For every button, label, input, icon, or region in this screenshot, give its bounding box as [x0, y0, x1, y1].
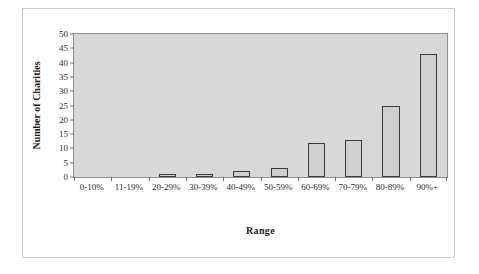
y-axis-tick-label: 5 [64, 158, 69, 167]
x-axis-tick-label: 30-39% [185, 181, 222, 193]
y-axis-tick [70, 119, 74, 120]
bar [233, 171, 250, 177]
y-axis-tick-label: 10 [59, 144, 68, 153]
y-axis-tick-label: 30 [59, 87, 68, 96]
chart-canvas: Number of Charities 05101520253035404550… [23, 9, 454, 257]
x-axis-title-label: Range [246, 225, 275, 236]
x-axis-tick-label: 60-69% [297, 181, 334, 193]
x-axis-tick-label: 40-49% [222, 181, 259, 193]
y-axis-tick [70, 48, 74, 49]
bar [345, 140, 362, 177]
x-axis-tick-label: 80-89% [371, 181, 408, 193]
y-axis-tick-label: 35 [59, 72, 68, 81]
bar [420, 54, 437, 177]
y-axis-tick-label: 0 [64, 173, 69, 182]
x-axis-tick-label: 11-19% [110, 181, 147, 193]
y-axis-tick-label: 50 [59, 30, 68, 39]
x-axis-title: Range [73, 225, 448, 236]
y-axis-title-label: Number of Charities [31, 61, 42, 149]
y-axis-tick-label: 25 [59, 101, 68, 110]
y-axis-tick [70, 62, 74, 63]
y-axis-title: Number of Charities [29, 33, 43, 178]
x-axis-tick-label: 90%+ [409, 181, 446, 193]
x-axis-tick-labels: 0-10%11-19%20-29%30-39%40-49%50-59%60-69… [73, 181, 448, 223]
bar [308, 143, 325, 177]
x-axis-tick-label: 20-29% [148, 181, 185, 193]
x-axis-tick-label: 70-79% [334, 181, 371, 193]
y-axis-tick [70, 162, 74, 163]
plot-area: 05101520253035404550 [73, 33, 448, 178]
y-axis-tick [70, 91, 74, 92]
x-axis-tick-label: 50-59% [260, 181, 297, 193]
y-axis-tick-label: 45 [59, 44, 68, 53]
y-axis-tick-label: 20 [59, 115, 68, 124]
x-axis-tick-label: 0-10% [73, 181, 110, 193]
bar [196, 174, 213, 177]
y-axis-tick [70, 148, 74, 149]
chart-frame: Number of Charities 05101520253035404550… [22, 8, 455, 258]
y-axis-tick [70, 134, 74, 135]
y-axis-tick-label: 15 [59, 130, 68, 139]
y-axis-tick [70, 34, 74, 35]
bar [159, 174, 176, 177]
y-axis-tick [70, 105, 74, 106]
bar [382, 106, 399, 178]
y-axis-tick [70, 76, 74, 77]
bar [271, 168, 288, 177]
y-axis-tick-label: 40 [59, 58, 68, 67]
